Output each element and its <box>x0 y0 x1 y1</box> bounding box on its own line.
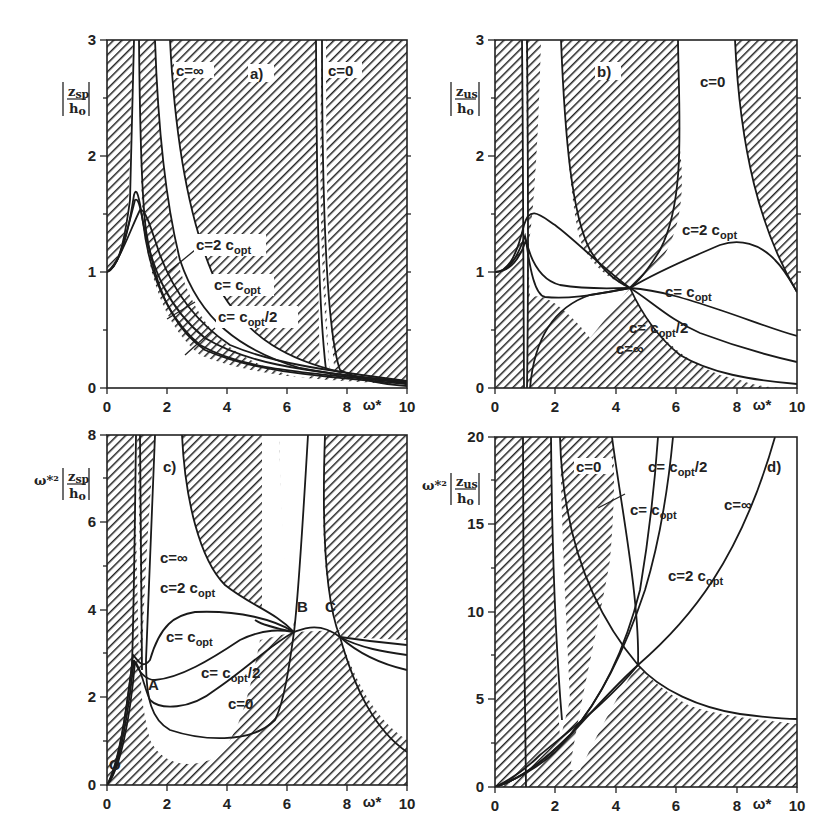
x-tick: 6 <box>672 398 680 415</box>
annotation-c-inf: c=∞ <box>724 496 752 513</box>
x-tick: 2 <box>551 797 559 814</box>
y-tick: 8 <box>88 426 96 443</box>
x-tick: 0 <box>491 797 499 814</box>
svg-text:ω*²: ω*² <box>34 473 59 488</box>
svg-text:zsp: zsp <box>68 469 90 486</box>
x-axis-label: ω* <box>753 795 772 812</box>
curve-c0-left2 <box>527 40 528 388</box>
panel-b: 3 2 1 0 0 2 4 6 8 10 ω* zus ho b) c=0 c=… <box>451 31 805 415</box>
x-tick: 4 <box>612 797 621 814</box>
y-tick: 0 <box>476 778 484 795</box>
figure: 3 2 1 0 0 2 4 6 8 10 ω* zsp ho c=∞ a) c=… <box>0 0 834 836</box>
svg-text:ho: ho <box>69 101 86 118</box>
annotation-c-inf: c=∞ <box>176 62 204 79</box>
panel-label: c) <box>163 458 176 475</box>
x-tick: 2 <box>163 795 171 812</box>
x-tick: 4 <box>223 398 232 415</box>
svg-text:zus: zus <box>456 84 478 101</box>
svg-text:zsp: zsp <box>68 84 90 101</box>
svg-text:zus: zus <box>456 474 478 491</box>
y-tick: 4 <box>88 601 97 618</box>
y-tick: 3 <box>88 31 96 48</box>
panel-c: 8 6 4 2 0 0 2 4 6 8 10 ω* ω*² zsp ho c) … <box>34 426 415 812</box>
x-tick: 8 <box>343 795 351 812</box>
x-tick: 0 <box>103 795 111 812</box>
annotation-c-inf: c=∞ <box>160 549 188 566</box>
svg-text:ho: ho <box>69 486 86 503</box>
x-tick: 6 <box>283 398 291 415</box>
y-axis-label: zus ho <box>451 82 479 118</box>
annotation-c-zero: c=0 <box>228 695 253 712</box>
annotation-c-zero: c=0 <box>576 458 601 475</box>
y-tick: 6 <box>88 513 96 530</box>
y-tick: 2 <box>88 688 96 705</box>
y-tick: 2 <box>88 147 96 164</box>
x-tick: 10 <box>399 398 416 415</box>
y-tick: 3 <box>476 31 484 48</box>
y-axis-label: ω*² zus ho <box>422 473 479 508</box>
point-label-A: A <box>148 676 159 693</box>
x-tick: 6 <box>283 795 291 812</box>
x-axis-label: ω* <box>363 396 382 413</box>
x-tick: 0 <box>103 398 111 415</box>
point-label-O: O <box>109 756 121 773</box>
panel-label: d) <box>767 458 781 475</box>
x-tick: 2 <box>163 398 171 415</box>
svg-text:ho: ho <box>457 491 474 508</box>
x-tick: 2 <box>551 398 559 415</box>
x-tick: 10 <box>789 398 806 415</box>
annotation-c-zero: c=0 <box>328 62 353 79</box>
x-axis-label: ω* <box>753 396 772 413</box>
x-tick: 4 <box>612 398 621 415</box>
x-tick: 10 <box>399 795 416 812</box>
point-label-C: C <box>325 598 336 615</box>
y-tick: 1 <box>476 263 484 280</box>
y-tick: 0 <box>88 776 96 793</box>
y-tick: 15 <box>467 515 484 532</box>
panel-label: a) <box>250 65 263 82</box>
x-tick: 0 <box>491 398 499 415</box>
panel-a: 3 2 1 0 0 2 4 6 8 10 ω* zsp ho c=∞ a) c=… <box>63 31 415 415</box>
point-label-B: B <box>297 598 308 615</box>
x-axis-label: ω* <box>363 793 382 810</box>
x-tick: 8 <box>343 398 351 415</box>
x-tick: 4 <box>223 795 232 812</box>
x-tick: 10 <box>789 797 806 814</box>
x-tick: 8 <box>733 398 741 415</box>
y-tick: 0 <box>476 379 484 396</box>
svg-text:ho: ho <box>457 101 474 118</box>
panel-label: b) <box>597 63 611 80</box>
panel-d: 20 15 10 5 0 0 2 4 6 8 10 ω* ω*² zus ho … <box>422 428 805 814</box>
y-axis-label: ω*² zsp ho <box>34 468 90 503</box>
y-tick: 0 <box>88 379 96 396</box>
y-tick: 20 <box>467 428 484 445</box>
annotation-c-zero: c=0 <box>700 73 725 90</box>
y-tick: 5 <box>476 690 484 707</box>
x-tick: 8 <box>733 797 741 814</box>
y-tick: 2 <box>476 147 484 164</box>
annotation-c-inf: c=∞ <box>616 340 644 357</box>
x-tick: 6 <box>672 797 680 814</box>
y-tick: 10 <box>467 603 484 620</box>
y-tick: 1 <box>88 263 96 280</box>
svg-text:ω*²: ω*² <box>422 478 447 493</box>
y-axis-label: zsp ho <box>63 82 90 118</box>
